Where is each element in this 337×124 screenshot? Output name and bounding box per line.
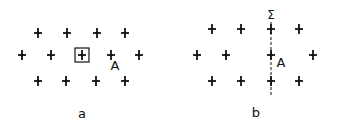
lattice-diagram: Aa AΣb bbox=[0, 0, 337, 124]
lattice-point-plus-icon bbox=[309, 50, 317, 60]
lattice-point-plus-icon bbox=[92, 76, 100, 86]
panel-label-a: a bbox=[78, 106, 86, 121]
atom-label-A: A bbox=[277, 55, 286, 70]
lattice-point-plus-icon bbox=[18, 50, 26, 60]
lattice-point-plus-icon bbox=[34, 76, 42, 86]
lattice-point-plus-icon bbox=[295, 24, 303, 34]
lattice-point-plus-icon bbox=[237, 76, 245, 86]
lattice-point-plus-icon bbox=[135, 50, 143, 60]
lattice-point-plus-icon bbox=[267, 76, 275, 86]
lattice-point-plus-icon bbox=[121, 28, 129, 38]
lattice-point-plus-icon bbox=[47, 50, 55, 60]
lattice-point-plus-icon bbox=[222, 50, 230, 60]
mirror-label-sigma: Σ bbox=[267, 8, 275, 22]
lattice-point-plus-icon bbox=[267, 24, 275, 34]
panel-b: AΣb bbox=[193, 8, 317, 120]
lattice-point-plus-icon bbox=[93, 28, 101, 38]
lattice-point-plus-icon bbox=[237, 24, 245, 34]
lattice-point-plus-icon bbox=[63, 28, 71, 38]
lattice-point-plus-icon bbox=[121, 76, 129, 86]
lattice-point-plus-icon bbox=[267, 50, 275, 60]
panel-label-b: b bbox=[252, 105, 260, 120]
panel-a: Aa bbox=[18, 28, 143, 121]
lattice-point-plus-icon bbox=[208, 24, 216, 34]
lattice-point-plus-icon bbox=[62, 76, 70, 86]
atom-label-A: A bbox=[111, 58, 120, 73]
lattice-point-plus-icon bbox=[193, 50, 201, 60]
lattice-point-plus-icon bbox=[78, 50, 86, 60]
lattice-point-plus-icon bbox=[34, 28, 42, 38]
lattice-point-plus-icon bbox=[208, 76, 216, 86]
lattice-point-plus-icon bbox=[295, 76, 303, 86]
